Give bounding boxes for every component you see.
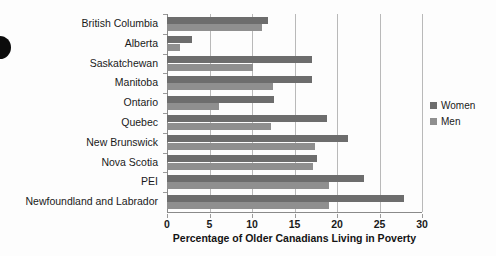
y-axis-tick — [163, 192, 167, 193]
y-axis-label: Saskatchewan — [0, 54, 163, 74]
plot-area — [167, 14, 422, 212]
bar-group — [167, 93, 422, 113]
bar-men — [167, 182, 329, 189]
bar-group — [167, 113, 422, 133]
x-axis-ticks: 051015202530 — [167, 214, 422, 230]
bar-men — [167, 123, 271, 130]
bar-group — [167, 133, 422, 153]
bar-group — [167, 54, 422, 74]
y-axis-label: British Columbia — [0, 14, 163, 34]
bar-women — [167, 96, 274, 103]
y-axis-tick — [163, 54, 167, 55]
y-axis-tick — [163, 14, 167, 15]
chart-page: British ColumbiaAlbertaSaskatchewanManit… — [0, 0, 496, 256]
y-axis-tick — [163, 113, 167, 114]
legend-label: Men — [441, 116, 460, 127]
y-axis-tick — [163, 153, 167, 154]
bar-group — [167, 153, 422, 173]
bar-women — [167, 195, 404, 202]
y-axis-label: Newfoundland and Labrador — [0, 192, 163, 212]
y-axis-tick — [163, 133, 167, 134]
x-axis-tick-label: 15 — [289, 218, 301, 230]
legend-swatch-icon — [430, 102, 437, 109]
y-axis-label: Nova Scotia — [0, 153, 163, 173]
bar-group — [167, 73, 422, 93]
bar-women — [167, 135, 348, 142]
bar-women — [167, 36, 192, 43]
bar-men — [167, 202, 329, 209]
bar-men — [167, 24, 262, 31]
y-axis-tick — [163, 172, 167, 173]
gridline-30 — [422, 14, 423, 212]
bar-women — [167, 155, 317, 162]
chart-legend: WomenMen — [430, 98, 475, 130]
bar-women — [167, 17, 268, 24]
bar-rows — [167, 14, 422, 212]
x-axis-tick-label: 5 — [207, 218, 213, 230]
y-axis-label: New Brunswick — [0, 133, 163, 153]
x-axis-tick-label: 20 — [331, 218, 343, 230]
legend-label: Women — [441, 100, 475, 111]
y-axis-category-labels: British ColumbiaAlbertaSaskatchewanManit… — [0, 14, 163, 212]
bar-men — [167, 44, 180, 51]
bar-group — [167, 192, 422, 212]
x-axis-line — [167, 212, 422, 213]
bar-men — [167, 64, 253, 71]
y-axis-tick — [163, 73, 167, 74]
y-axis-tick — [163, 93, 167, 94]
bar-men — [167, 163, 313, 170]
bar-men — [167, 103, 219, 110]
y-axis-label: Quebec — [0, 113, 163, 133]
bar-women — [167, 56, 312, 63]
y-axis-label: Manitoba — [0, 73, 163, 93]
y-axis-label: Alberta — [0, 34, 163, 54]
legend-item-women[interactable]: Women — [430, 98, 475, 112]
y-axis-tick — [163, 34, 167, 35]
legend-item-men[interactable]: Men — [430, 114, 475, 128]
bar-group — [167, 172, 422, 192]
bar-women — [167, 76, 312, 83]
x-axis-tick-label: 10 — [246, 218, 258, 230]
y-axis-label: Ontario — [0, 93, 163, 113]
x-axis-tick-label: 25 — [374, 218, 386, 230]
x-axis-tick-label: 0 — [164, 218, 170, 230]
bar-group — [167, 34, 422, 54]
bar-women — [167, 175, 364, 182]
legend-swatch-icon — [430, 118, 437, 125]
x-axis-title: Percentage of Older Canadians Living in … — [167, 232, 422, 244]
bar-group — [167, 14, 422, 34]
x-axis-tick-label: 30 — [416, 218, 428, 230]
bar-women — [167, 115, 327, 122]
y-axis-label: PEI — [0, 172, 163, 192]
bar-men — [167, 83, 273, 90]
bar-men — [167, 143, 315, 150]
